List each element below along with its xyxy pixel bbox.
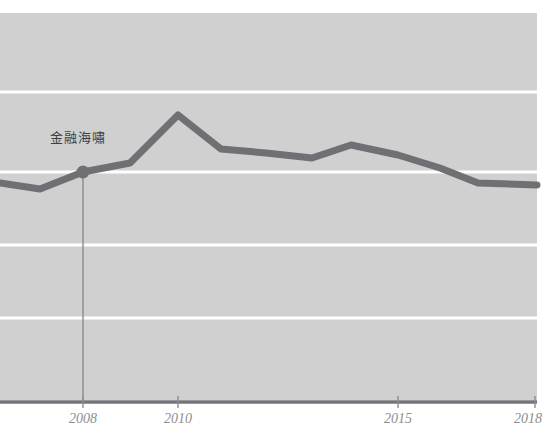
x-tick-label-2015: 2015 [384, 412, 412, 426]
annotation-marker-dot [77, 166, 90, 179]
x-tick-label-2010: 2010 [164, 412, 192, 426]
chart-canvas: 金融海嘯 2008 2010 2015 2018 [0, 0, 545, 441]
plot-texture-overlay [0, 13, 537, 400]
annotation-label-financial-crisis: 金融海嘯 [50, 131, 106, 144]
x-tick-label-2008: 2008 [69, 412, 97, 426]
line-chart [0, 0, 545, 441]
x-tick-label-2018: 2018 [514, 412, 542, 426]
